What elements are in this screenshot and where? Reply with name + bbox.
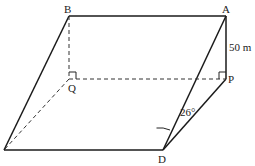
- label-D: D: [158, 153, 166, 165]
- edge-B-C: [4, 16, 69, 150]
- label-Q: Q: [68, 82, 76, 94]
- right-angle-marker-P: [219, 72, 226, 79]
- angle-label: 26°: [180, 106, 195, 118]
- height-label: 50 m: [229, 41, 252, 53]
- geometry-diagram: B A Q P D 50 m 26°: [0, 0, 255, 166]
- label-A: A: [222, 3, 230, 15]
- label-B: B: [64, 3, 71, 15]
- angle-arc-D: [157, 128, 171, 130]
- edge-AD: [163, 16, 226, 150]
- right-angle-marker-Q: [69, 72, 76, 79]
- label-P: P: [228, 73, 234, 85]
- hidden-edge-Q-C: [4, 79, 69, 150]
